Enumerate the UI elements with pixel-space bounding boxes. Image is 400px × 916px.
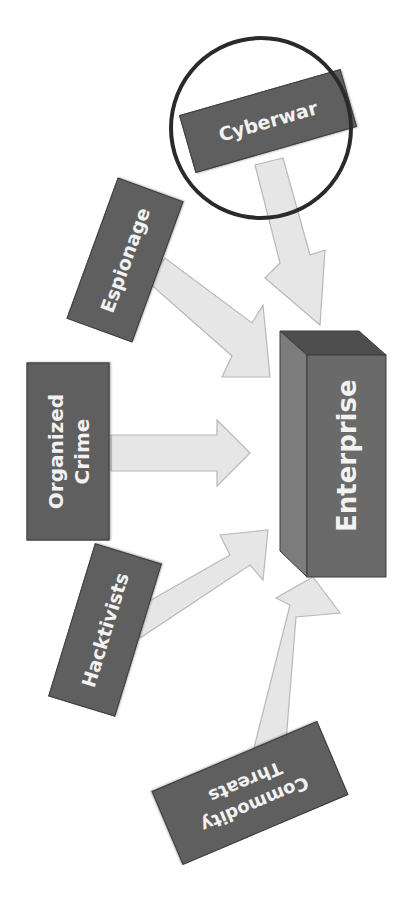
highlight-circle — [171, 38, 351, 218]
threat-diagram: Enterprise Cyberwar Espionage Organized … — [0, 0, 400, 916]
highlight-layer — [0, 0, 400, 916]
